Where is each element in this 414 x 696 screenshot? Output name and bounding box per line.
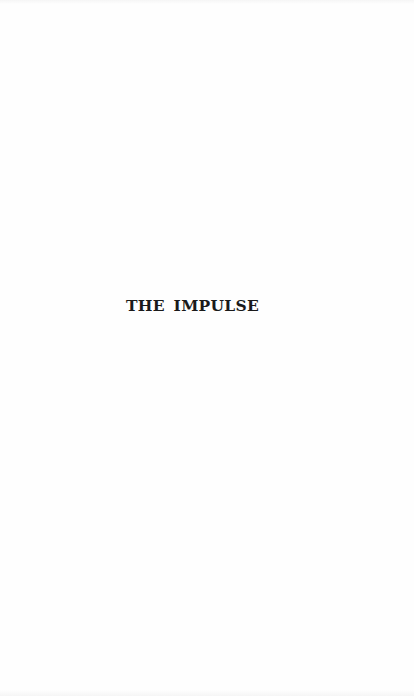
book-page: THE IMPULSE [0,0,414,696]
scan-edge-top [0,0,414,4]
scan-edge-bottom [0,690,414,696]
half-title: THE IMPULSE [126,296,252,316]
